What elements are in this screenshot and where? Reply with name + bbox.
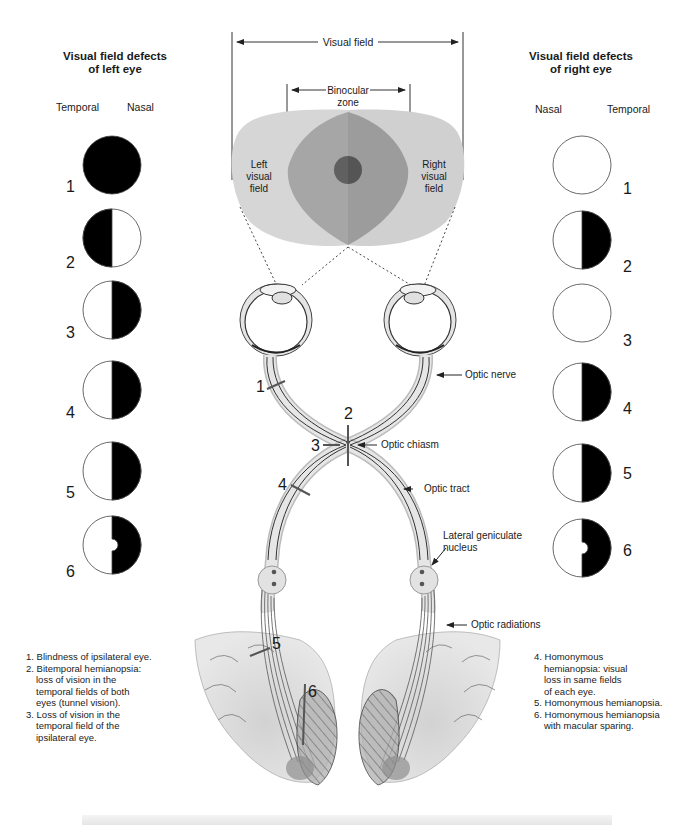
note-line: temporal field of the: [26, 720, 196, 732]
lgn-line2: nucleus: [443, 542, 522, 554]
left-heading-line2: of left eye: [60, 63, 170, 76]
optic-chiasm-label: Optic chiasm: [381, 439, 439, 450]
binocular-zone-label: Binocular zone: [318, 85, 378, 109]
right-field-number: 2: [623, 258, 632, 276]
left-field-number: 6: [66, 563, 75, 581]
note-line: 3. Loss of vision in the: [26, 709, 196, 721]
lesion-marker-1: 1: [256, 378, 265, 396]
left-heading-line1: Visual field defects: [60, 50, 170, 63]
binocular-line1: Binocular: [318, 85, 378, 97]
right-eye-heading: Visual field defects of right eye: [525, 50, 637, 76]
right-vf-line3: field: [411, 183, 457, 195]
binocular-line2: zone: [318, 97, 378, 109]
right-field-number: 4: [623, 400, 632, 418]
left-field-number: 2: [66, 254, 75, 272]
footer-bar: [82, 815, 612, 825]
left-field-number: 3: [66, 324, 75, 342]
lesion-marker-5: 5: [272, 635, 281, 653]
optic-radiations-label: Optic radiations: [471, 619, 540, 630]
left-eye-heading: Visual field defects of left eye: [60, 50, 170, 76]
note-line: eyes (tunnel vision).: [26, 697, 196, 709]
left-vf-line1: Left: [236, 159, 282, 171]
right-eye-field-circles: [553, 136, 611, 577]
left-eye-field-circles: [83, 136, 141, 574]
left-field-number: 5: [66, 484, 75, 502]
optic-tract-label: Optic tract: [424, 483, 470, 494]
note-line: loss of vision in the: [26, 674, 196, 686]
occipital-lobes: [195, 590, 500, 785]
right-field-number: 3: [623, 332, 632, 350]
lesion-marker-2: 2: [344, 405, 353, 423]
left-field-number: 1: [66, 178, 75, 196]
right-nasal-label: Nasal: [535, 103, 562, 115]
left-temporal-label: Temporal: [56, 101, 99, 113]
left-visual-field-label: Left visual field: [236, 159, 282, 195]
left-field-number: 4: [66, 404, 75, 422]
lateral-geniculate-nuclei: [258, 566, 438, 594]
note-line: 4. Homonymous: [534, 651, 680, 663]
note-line: hemianopsia: visual: [534, 663, 680, 675]
visual-field-label: Visual field: [318, 36, 378, 48]
right-field-number: 5: [623, 465, 632, 483]
right-heading-line2: of right eye: [525, 63, 637, 76]
optic-pathway: [267, 355, 429, 612]
right-vf-line2: visual: [411, 171, 457, 183]
note-line: 2. Bitemporal hemianopsia:: [26, 663, 196, 675]
lgn-line1: Lateral geniculate: [443, 530, 522, 542]
left-vf-line3: field: [236, 183, 282, 195]
note-line: with macular sparing.: [534, 720, 680, 732]
notes-right: 4. Homonymous hemianopsia: visual loss i…: [534, 651, 680, 732]
right-visual-field-label: Right visual field: [411, 159, 457, 195]
right-field-number: 1: [623, 180, 632, 198]
right-field-number: 6: [623, 542, 632, 560]
notes-left: 1. Blindness of ipsilateral eye. 2. Bite…: [26, 651, 196, 743]
lesion-marker-4: 4: [278, 476, 287, 494]
note-line: loss in same fields: [534, 674, 680, 686]
note-line: 1. Blindness of ipsilateral eye.: [26, 651, 196, 663]
right-vf-line1: Right: [411, 159, 457, 171]
note-line: ipsilateral eye.: [26, 732, 196, 744]
note-line: temporal fields of both: [26, 686, 196, 698]
left-vf-line2: visual: [236, 171, 282, 183]
left-nasal-label: Nasal: [127, 101, 154, 113]
right-heading-line1: Visual field defects: [525, 50, 637, 63]
lesion-marker-6: 6: [308, 683, 317, 701]
right-temporal-label: Temporal: [607, 103, 650, 115]
lgn-label: Lateral geniculate nucleus: [443, 530, 522, 554]
note-line: 5. Homonymous hemianopsia.: [534, 697, 680, 709]
right-eye: [384, 284, 456, 356]
note-line: of each eye.: [534, 686, 680, 698]
optic-nerve-label: Optic nerve: [465, 369, 516, 380]
note-line: 6. Homonymous hemianopsia: [534, 709, 680, 721]
left-eye: [240, 284, 312, 356]
lesion-marker-3: 3: [311, 437, 320, 455]
